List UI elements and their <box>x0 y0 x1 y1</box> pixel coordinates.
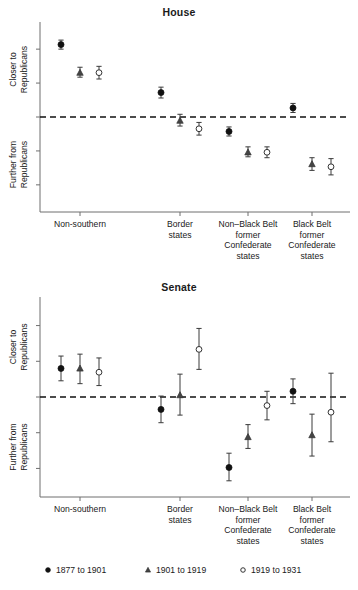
data-point <box>158 396 164 423</box>
marker-filled-circle <box>158 90 164 96</box>
legend-label-1: 1877 to 1901 <box>56 565 106 575</box>
data-point <box>226 453 232 481</box>
x-axis-label-3: former <box>236 230 261 240</box>
y-axis-label-top-line2: Republicans <box>19 46 29 93</box>
x-axis-label-4: former <box>300 230 325 240</box>
x-axis-label-2: states <box>169 230 192 240</box>
data-point <box>58 40 64 49</box>
series-1 <box>58 40 296 136</box>
y-axis-label-bottom: Further fromRepublicans <box>8 423 29 470</box>
series-2 <box>77 354 315 456</box>
data-point <box>77 354 83 384</box>
legend-item-3[interactable]: 1919 to 1931 <box>241 565 302 575</box>
marker-filled-circle <box>290 105 296 111</box>
x-axis-label-2: Border <box>167 504 193 514</box>
x-axis-label-4: Confederate <box>288 240 336 250</box>
data-point <box>196 122 202 135</box>
x-axis-label-4: former <box>300 515 325 525</box>
data-point <box>96 358 102 386</box>
x-axis-label-4: states <box>301 251 324 261</box>
y-axis-label-bottom-line1: Further from <box>8 423 18 470</box>
marker-open-circle <box>264 403 270 409</box>
data-point <box>58 356 64 381</box>
marker-filled-circle <box>158 406 164 412</box>
y-axis-label-bottom: Further fromRepublicans <box>8 141 29 188</box>
legend-label-3: 1919 to 1931 <box>251 565 301 575</box>
marker-filled-triangle <box>177 392 183 398</box>
data-point <box>96 66 102 79</box>
y-axis-label-top-line2: Republicans <box>19 323 29 370</box>
data-point <box>328 373 334 442</box>
x-axis-label-1: Non-southern <box>54 219 106 229</box>
legend-label-2: 1901 to 1919 <box>156 565 206 575</box>
y-axis-label-top: Closer toRepublicans <box>8 46 29 93</box>
data-point <box>290 379 296 404</box>
x-axis-label-2: states <box>169 515 192 525</box>
y-axis-label-bottom-line1: Further from <box>8 141 18 188</box>
x-axis-label-4: states <box>301 536 324 546</box>
marker-filled-circle <box>226 128 232 134</box>
x-axis-label-1: Non-southern <box>54 504 106 514</box>
marker-open-circle <box>241 568 246 573</box>
x-axis-labels: Non-southernBorderstatesNon–Black Beltfo… <box>54 219 336 261</box>
series-1 <box>58 356 296 481</box>
marker-open-circle <box>96 70 102 76</box>
marker-filled-circle <box>58 42 64 48</box>
series-3 <box>96 328 334 441</box>
senate-plot: Closer toRepublicansFurther fromRepublic… <box>0 275 358 555</box>
legend-svg: 1877 to 19011901 to 19191919 to 1931 <box>0 558 358 582</box>
data-point <box>245 425 251 449</box>
data-point <box>177 114 183 126</box>
marker-filled-circle <box>290 388 296 394</box>
y-axis-label-top: Closer toRepublicans <box>8 323 29 370</box>
marker-open-circle <box>328 409 334 415</box>
data-point <box>309 414 315 456</box>
panel-title-house: House <box>0 6 358 18</box>
x-axis-label-2: Border <box>167 219 193 229</box>
marker-filled-triangle <box>245 434 251 440</box>
data-point <box>196 328 202 369</box>
panel-house: House Closer toRepublicansFurther fromRe… <box>0 0 358 265</box>
y-axis-label-bottom-line2: Republicans <box>19 141 29 188</box>
figure-root: House Closer toRepublicansFurther fromRe… <box>0 0 358 590</box>
data-point <box>226 127 232 136</box>
x-axis-label-3: Confederate <box>224 525 272 535</box>
marker-filled-triangle <box>309 161 315 167</box>
house-plot: Closer toRepublicansFurther fromRepublic… <box>0 0 358 265</box>
marker-filled-triangle <box>77 365 83 371</box>
data-point <box>245 147 251 157</box>
marker-filled-triangle <box>309 432 315 438</box>
x-axis-label-3: Non–Black Belt <box>219 219 278 229</box>
legend-item-2[interactable]: 1901 to 1919 <box>145 565 206 575</box>
data-point <box>158 87 164 98</box>
y-axis-label-top-line1: Closer to <box>8 52 18 87</box>
data-point <box>309 158 315 171</box>
data-point <box>290 103 296 112</box>
panel-senate: Senate Closer toRepublicansFurther fromR… <box>0 275 358 555</box>
marker-open-circle <box>328 164 334 170</box>
series-2 <box>77 67 315 170</box>
x-axis-label-3: states <box>237 251 260 261</box>
marker-filled-triangle <box>77 69 83 75</box>
marker-filled-circle <box>226 464 232 470</box>
x-axis-label-3: former <box>236 515 261 525</box>
marker-filled-circle <box>58 365 64 371</box>
marker-open-circle <box>264 149 270 155</box>
legend: 1877 to 19011901 to 19191919 to 1931 <box>0 558 358 582</box>
x-axis-labels: Non-southernBorderstatesNon–Black Beltfo… <box>54 504 336 546</box>
marker-open-circle <box>196 126 202 132</box>
marker-filled-triangle <box>177 117 183 123</box>
x-axis-label-3: states <box>237 536 260 546</box>
data-point <box>264 147 270 158</box>
marker-filled-triangle <box>145 567 150 572</box>
marker-open-circle <box>96 369 102 375</box>
marker-filled-circle <box>46 568 51 573</box>
x-axis-label-4: Black Belt <box>293 504 332 514</box>
y-axis-label-bottom-line2: Republicans <box>19 423 29 470</box>
series-3 <box>96 66 334 175</box>
legend-item-1[interactable]: 1877 to 1901 <box>46 565 107 575</box>
data-point <box>328 159 334 175</box>
marker-filled-triangle <box>245 149 251 155</box>
x-axis-label-3: Non–Black Belt <box>219 504 278 514</box>
data-point <box>264 391 270 420</box>
